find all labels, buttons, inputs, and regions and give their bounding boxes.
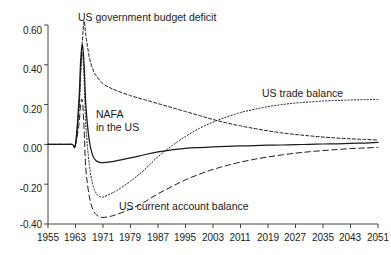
y-tick-label-0: 0.60 (6, 25, 42, 36)
x-axis-ticks (48, 224, 378, 228)
series-line-nafa-in-the-us (48, 45, 378, 163)
series-label-nafa-line1: NAFA (96, 108, 123, 120)
y-axis-ticks (44, 25, 48, 224)
y-tick-label-1: 0.40 (6, 64, 42, 75)
y-tick-label-2: 0.20 (6, 104, 42, 115)
series-label-current-account: US current account balance (119, 200, 249, 212)
series-label-nafa: NAFA in the US (96, 108, 156, 133)
x-tick-label-12: 2051 (361, 232, 391, 243)
series-label-nafa-line2: in the US (96, 121, 139, 133)
y-tick-label-4: -0.20 (3, 183, 42, 194)
chart-container: 0.60 0.40 0.20 0.00 -0.20 -0.40 1955 196… (0, 0, 391, 255)
chart-plot-area (0, 0, 391, 255)
y-tick-label-3: 0.00 (6, 143, 42, 154)
y-tick-label-5: -0.40 (3, 219, 42, 230)
series-label-trade-balance: US trade balance (262, 87, 343, 99)
series-label-budget-deficit: US government budget deficit (78, 11, 216, 23)
